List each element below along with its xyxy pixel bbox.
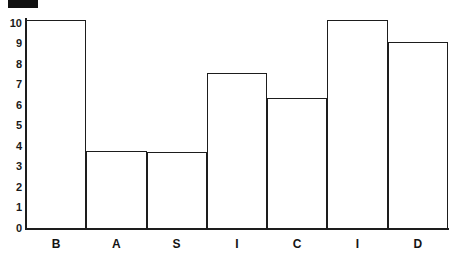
x-axis-category-label: S	[147, 234, 207, 258]
bar	[388, 42, 448, 228]
y-axis-tick-labels: 012345678910	[0, 0, 22, 262]
y-axis-tick-label: 8	[0, 58, 22, 69]
bar	[86, 151, 146, 228]
bar-chart: 012345678910 BASICID	[0, 0, 463, 262]
y-axis-tick-label: 3	[0, 161, 22, 172]
bar	[267, 98, 327, 228]
plot-area	[26, 14, 448, 228]
y-axis-tick-label: 4	[0, 140, 22, 151]
x-axis-category-label: D	[388, 234, 448, 258]
x-axis-category-labels: BASICID	[26, 234, 448, 258]
bar	[207, 73, 267, 228]
x-axis-category-label: I	[327, 234, 387, 258]
x-axis-category-label: A	[86, 234, 146, 258]
x-axis-category-label: C	[267, 234, 327, 258]
bar	[147, 152, 207, 228]
x-axis-category-label: B	[26, 234, 86, 258]
bar	[26, 20, 86, 228]
bar	[327, 20, 387, 228]
x-axis-category-label: I	[207, 234, 267, 258]
y-axis-tick-label: 5	[0, 120, 22, 131]
y-axis-tick-label: 2	[0, 181, 22, 192]
y-axis-tick-label: 6	[0, 99, 22, 110]
y-axis-tick-label: 7	[0, 79, 22, 90]
x-axis-line	[25, 228, 449, 230]
y-axis-tick-label: 1	[0, 202, 22, 213]
y-axis-tick-label: 0	[0, 223, 22, 234]
y-axis-tick-label: 10	[0, 17, 22, 28]
y-axis-tick-label: 9	[0, 38, 22, 49]
